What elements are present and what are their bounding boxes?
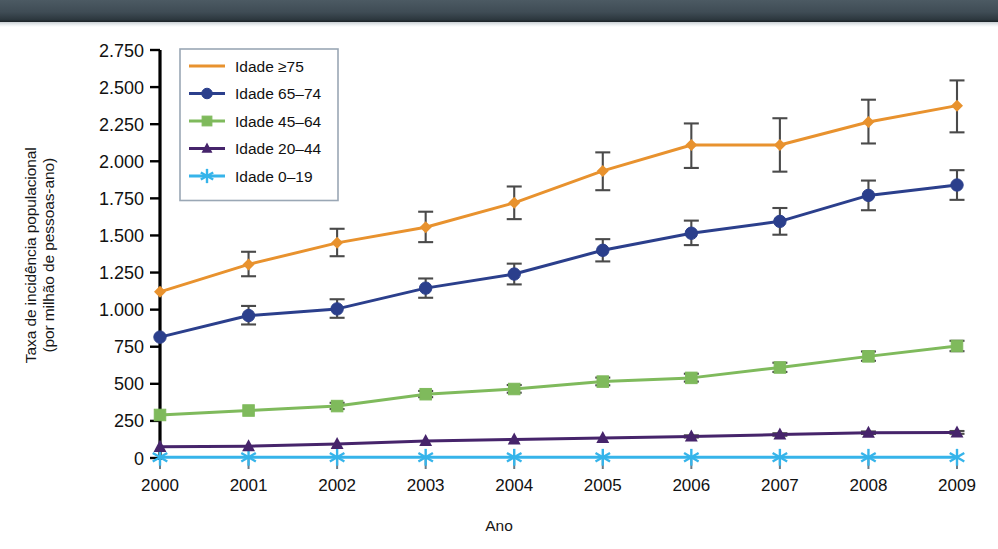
data-point-marker [331, 400, 343, 412]
data-point-marker [597, 376, 609, 388]
data-point-marker [862, 189, 874, 201]
y-tick-label: 250 [114, 411, 144, 431]
legend-item-label: Idade ≥75 [235, 58, 304, 75]
chart-plot-area: 02505007501.0001.2501.5001.7502.0002.250… [0, 27, 998, 549]
y-tick-label: 2.500 [99, 78, 144, 98]
data-point-marker [862, 116, 874, 128]
x-tick-label: 2004 [495, 476, 533, 495]
incidence-rate-line-chart: 02505007501.0001.2501.5001.7502.0002.250… [0, 27, 998, 549]
x-tick-label: 2008 [850, 476, 888, 495]
data-point-marker [951, 179, 963, 191]
data-point-marker [774, 362, 786, 374]
y-tick-label: 2.250 [99, 115, 144, 135]
y-axis-title-line2: (por milhão de pessoas-ano) [40, 85, 58, 425]
data-point-marker [420, 388, 432, 400]
y-axis-title: Taxa de incidência populacional (por mil… [22, 85, 59, 425]
data-point-marker [242, 309, 254, 321]
x-tick-label: 2001 [230, 476, 268, 495]
x-tick-label: 2002 [318, 476, 356, 495]
data-point-marker [420, 221, 432, 233]
y-tick-label: 500 [114, 374, 144, 394]
chart-legend: Idade ≥75Idade 65–74Idade 45–64Idade 20–… [180, 49, 338, 201]
data-point-marker [154, 286, 166, 298]
data-point-marker [597, 244, 609, 256]
data-point-marker [685, 227, 697, 239]
x-tick-label: 2007 [761, 476, 799, 495]
y-tick-label: 2.750 [99, 41, 144, 61]
data-point-marker [951, 100, 963, 112]
y-axis-title-line1: Taxa de incidência populacional [22, 147, 39, 363]
data-point-marker [154, 331, 166, 343]
series-line [160, 346, 957, 415]
x-tick-label: 2000 [141, 476, 179, 495]
series-line [160, 185, 957, 337]
data-point-marker [202, 116, 212, 126]
data-point-marker [951, 340, 963, 352]
data-point-marker [685, 139, 697, 151]
data-point-marker [863, 351, 875, 363]
data-point-marker [243, 405, 255, 417]
legend-item-label: Idade 0–19 [235, 168, 313, 185]
data-point-marker [508, 383, 520, 395]
x-tick-label: 2003 [407, 476, 445, 495]
scanned-page-top-edge [0, 0, 998, 22]
y-tick-label: 750 [114, 337, 144, 357]
y-tick-label: 1.750 [99, 189, 144, 209]
data-point-marker [331, 237, 343, 249]
y-tick-label: 0 [134, 449, 144, 469]
y-tick-label: 1.250 [99, 263, 144, 283]
data-point-marker [243, 258, 255, 270]
data-point-marker [686, 372, 698, 384]
y-tick-label: 1.500 [99, 226, 144, 246]
legend-item-label: Idade 20–44 [235, 140, 322, 157]
x-tick-label: 2005 [584, 476, 622, 495]
x-tick-label: 2009 [938, 476, 976, 495]
data-point-marker [597, 165, 609, 177]
data-point-marker [331, 303, 343, 315]
legend-item-label: Idade 65–74 [235, 85, 322, 102]
data-point-marker [508, 197, 520, 209]
x-tick-label: 2006 [672, 476, 710, 495]
y-tick-label: 2.000 [99, 152, 144, 172]
y-tick-label: 1.000 [99, 300, 144, 320]
series-line [160, 432, 957, 446]
data-point-marker [508, 268, 520, 280]
series-idade-20-44 [154, 425, 965, 451]
data-point-marker [774, 139, 786, 151]
data-point-marker [774, 215, 786, 227]
series-idade-45-64 [154, 340, 964, 420]
data-point-marker [419, 282, 431, 294]
data-point-marker [154, 409, 166, 421]
legend-item-label: Idade 45–64 [235, 113, 322, 130]
x-axis-title: Ano [0, 517, 998, 535]
data-point-marker [202, 88, 213, 99]
series-idade-0-19 [153, 449, 965, 466]
